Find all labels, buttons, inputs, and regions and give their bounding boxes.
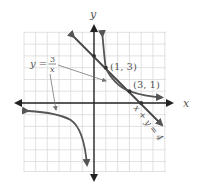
grid bbox=[24, 32, 166, 172]
x-axis-label: x bbox=[183, 97, 190, 110]
graph-figure: x y (1, 3) (3, 1) y = 3 x x + y = 4 bbox=[0, 0, 201, 190]
hyperbola-label-denominator: x bbox=[50, 65, 55, 74]
axes bbox=[16, 26, 172, 180]
point-1-3 bbox=[104, 66, 108, 70]
hyperbola-label-numerator: 3 bbox=[50, 55, 55, 64]
y-axis-label: y bbox=[89, 8, 97, 21]
y-intercept-0-4 bbox=[92, 54, 96, 58]
point-3-1 bbox=[127, 89, 131, 93]
label-point-3-1: (3, 1) bbox=[133, 79, 160, 90]
hyperbola-label-lhs: y = bbox=[29, 58, 47, 69]
hyperbola-label: y = 3 x bbox=[29, 55, 56, 74]
label-point-1-3: (1, 3) bbox=[110, 61, 137, 72]
